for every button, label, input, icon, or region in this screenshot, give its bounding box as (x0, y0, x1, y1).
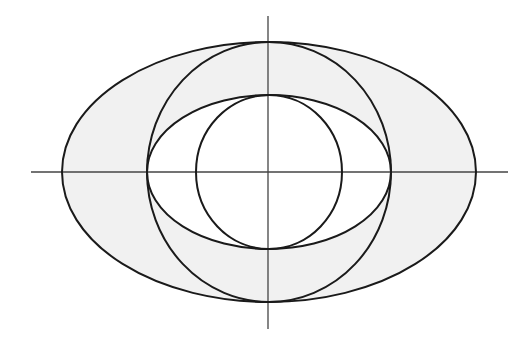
conic-diagram (0, 0, 527, 345)
